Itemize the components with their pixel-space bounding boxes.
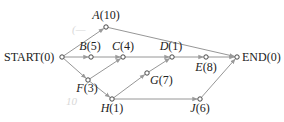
node-label: F(3) [75, 81, 97, 95]
edge-f-to-c [90, 59, 121, 79]
node-circle-icon [235, 55, 239, 59]
node-label: END(0) [242, 50, 281, 64]
activity-network-diagram: (—10 START(0)A(10)B(5)C(4)D(1)E(8)END(0)… [0, 0, 284, 122]
node-circle-icon [104, 25, 108, 29]
node-circle-icon [204, 55, 208, 59]
node-label: B(5) [79, 39, 100, 53]
edge-g-to-d [149, 59, 170, 72]
node-label: G(7) [150, 73, 173, 87]
node-c: C(4) [112, 39, 134, 59]
pencil-mark: 10 [66, 95, 78, 107]
edge-start-to-f [64, 58, 86, 78]
node-label: C(4) [112, 39, 134, 53]
node-e: E(8) [194, 55, 216, 74]
node-label: J(6) [190, 101, 209, 115]
node-label: START(0) [4, 50, 54, 64]
node-circle-icon [121, 55, 125, 59]
node-label: H(1) [100, 101, 124, 115]
pencil-mark: (— [72, 23, 86, 36]
node-circle-icon [145, 71, 149, 75]
node-label: D(1) [159, 39, 183, 53]
node-d: D(1) [159, 39, 183, 59]
node-a: A(10) [91, 8, 119, 29]
node-label: A(10) [91, 8, 119, 22]
node-end: END(0) [235, 50, 281, 64]
node-start: START(0) [4, 50, 64, 64]
node-g: G(7) [145, 71, 173, 87]
node-label: E(8) [194, 60, 216, 74]
node-circle-icon [170, 55, 174, 59]
node-b: B(5) [79, 39, 100, 59]
node-circle-icon [60, 55, 64, 59]
node-j: J(6) [190, 97, 209, 115]
node-h: H(1) [100, 97, 124, 115]
node-f: F(3) [75, 78, 97, 95]
node-circle-icon [89, 55, 93, 59]
edge-h-to-g [114, 75, 145, 98]
